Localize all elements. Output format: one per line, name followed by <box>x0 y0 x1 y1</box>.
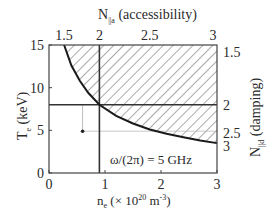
right-axis: 1.522.53 <box>223 45 241 154</box>
right-tick-label: 2 <box>223 98 230 113</box>
right-tick-label: 1.5 <box>223 45 241 60</box>
y-tick-label: 5 <box>37 123 44 138</box>
chart: 0123 051015 1.522.53 1.522.53 N||a (acce… <box>0 0 272 219</box>
right-axis-label: N||d (damping) <box>248 78 266 157</box>
top-tick-label: 2 <box>96 28 103 43</box>
hatched-region <box>64 45 217 143</box>
hatch-fill <box>64 45 217 143</box>
y-tick-label: 0 <box>37 166 44 181</box>
x-tick-label: 1 <box>102 177 109 192</box>
y-axis-label: Te (keV) <box>15 91 33 140</box>
top-axis: 1.522.53 <box>55 28 216 43</box>
top-tick-label: 1.5 <box>55 28 73 43</box>
x-tick-label: 2 <box>158 177 165 192</box>
x-tick-label: 0 <box>46 177 53 192</box>
y-tick-label: 10 <box>30 81 44 96</box>
top-tick-label: 2.5 <box>141 28 159 43</box>
right-tick-label: 3 <box>223 139 230 154</box>
frequency-annotation: ω/(2π) = 5 GHz <box>110 152 192 167</box>
x-tick-label: 3 <box>214 177 221 192</box>
top-axis-label: N||a (accessibility) <box>98 7 197 25</box>
top-tick-label: 3 <box>210 28 217 43</box>
x-axis-label: ne (× 1020 m-3) <box>97 193 171 210</box>
y-tick-label: 15 <box>30 38 44 53</box>
marker-point <box>81 129 85 133</box>
